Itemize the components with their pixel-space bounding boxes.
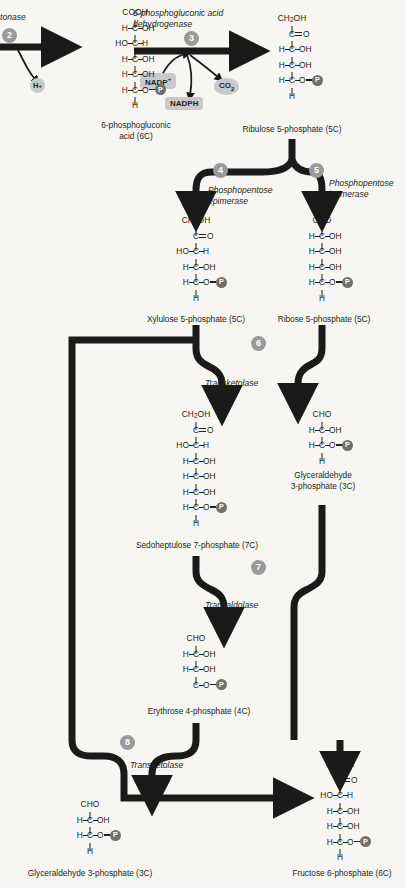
enzyme-isomerase-line2: isomerase	[329, 189, 394, 200]
label-glyceraldehyde-3-phosphate-mid: Glyceraldehyde 3-phosphate (3C)	[272, 470, 374, 491]
enzyme-label-transaldolase-7: Transaldolase	[205, 600, 258, 611]
cofactor-co2-sub: 2	[231, 85, 234, 91]
label-xu5p-line1: Xylulose 5-phosphate (5C)	[133, 314, 259, 325]
label-gap-bottom-line1: Glyceraldehyde 3-phosphate (3C)	[2, 868, 178, 879]
label-6pg-line1: 6-phosphogluconic	[95, 120, 177, 131]
cofactor-nadph-label: NADPH	[170, 99, 198, 108]
step-badge-3[interactable]: 3	[184, 31, 199, 46]
cofactor-co2-label: CO	[219, 81, 231, 90]
label-6-phosphogluconic-acid: 6-phosphogluconic acid (6C)	[95, 120, 177, 141]
enzyme-label-transketolase-8: Transketolase	[130, 760, 183, 771]
cofactor-nadp-plus-sup: +	[168, 76, 172, 82]
step-badge-4[interactable]: 4	[213, 163, 228, 178]
label-xylulose-5-phosphate: Xylulose 5-phosphate (5C)	[133, 314, 259, 325]
enzyme-label-isomerase: Phosphopentose isomerase	[329, 178, 394, 199]
label-fructose-6-phosphate: Fructose 6-phosphate (6C)	[278, 868, 406, 879]
step-badge-2[interactable]: 2	[2, 28, 17, 43]
label-ru5p-line1: Ribulose 5-phosphate (5C)	[232, 124, 352, 135]
label-6pg-line2: acid (6C)	[95, 131, 177, 142]
atom-cooh: COOH	[122, 8, 148, 16]
label-gap-mid-line2: 3-phosphate (3C)	[272, 481, 374, 492]
atom-ch2oh: CH2OH	[278, 14, 307, 23]
pathway-diagram: 2 3 4 5 6 7 8 tonase 6-phosphogluconic a…	[0, 0, 406, 888]
step-badge-6[interactable]: 6	[251, 336, 266, 351]
enzyme-isomerase-line1: Phosphopentose	[329, 178, 394, 189]
cofactor-nadph: NADPH	[165, 97, 203, 110]
label-s7p-line1: Sedoheptulose 7-phosphate (7C)	[116, 540, 278, 551]
step-badge-5[interactable]: 5	[309, 163, 324, 178]
label-f6p-line1: Fructose 6-phosphate (6C)	[278, 868, 406, 879]
enzyme-label-transketolase-6: Transketolase	[205, 378, 258, 389]
label-r5p-line1: Ribose 5-phosphate (5C)	[266, 314, 382, 325]
label-sedoheptulose-7-phosphate: Sedoheptulose 7-phosphate (7C)	[116, 540, 278, 551]
label-glyceraldehyde-3-phosphate-bottom: Glyceraldehyde 3-phosphate (3C)	[2, 868, 178, 879]
enzyme-label-lactonase: tonase	[0, 12, 26, 23]
enzyme-epimerase-line1: Phosphopentose	[208, 185, 273, 196]
step-badge-8[interactable]: 8	[120, 735, 135, 750]
label-erythrose-4-phosphate: Erythrose 4-phosphate (4C)	[134, 706, 264, 717]
cofactor-co2: CO2	[214, 78, 239, 95]
label-ribulose-5-phosphate: Ribulose 5-phosphate (5C)	[232, 124, 352, 135]
label-ribose-5-phosphate: Ribose 5-phosphate (5C)	[266, 314, 382, 325]
enzyme-label-epimerase: Phosphopentose epimerase	[208, 185, 273, 206]
cofactor-h-plus: H+	[30, 78, 45, 93]
step-badge-7[interactable]: 7	[251, 560, 266, 575]
enzyme-epimerase-line2: epimerase	[208, 196, 273, 207]
label-gap-mid-line1: Glyceraldehyde	[272, 470, 374, 481]
label-e4p-line1: Erythrose 4-phosphate (4C)	[134, 706, 264, 717]
cofactor-h-plus-sup: +	[38, 83, 42, 89]
